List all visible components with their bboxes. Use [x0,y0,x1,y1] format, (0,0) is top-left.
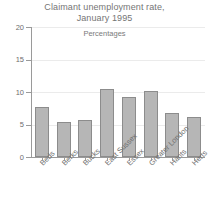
next-chart-partial: 20 Percentages [0,205,209,222]
gridline [31,60,205,61]
y-tick-mark [26,92,31,93]
y-tick-label-text: 5 [0,120,24,129]
y-tick-label: 0 [0,153,24,162]
y-tick-label: 10 [0,88,24,97]
y-tick-mark [26,157,31,158]
x-tick-mark [151,158,152,161]
gridline [31,27,205,28]
x-tick-mark [64,158,65,161]
x-tick-mark [172,158,173,161]
y-tick-label-text: 0 [0,153,24,162]
x-tick-mark [85,158,86,161]
bar [144,91,158,157]
gridline [31,92,205,93]
bar [100,89,114,157]
bar [35,107,49,157]
y-tick-mark [26,27,31,28]
x-tick-mark [194,158,195,161]
chart-title: Claimant unemployment rate, January 1995 [0,2,209,24]
x-tick-mark [129,158,130,161]
chart-title-line-1: Claimant unemployment rate, [0,2,209,13]
y-tick-label: 15 [0,55,24,64]
y-axis-line [31,27,32,158]
y-tick-label-text: 10 [0,88,24,97]
y-tick-label: 5 [0,120,24,129]
y-tick-label-text: 20 [0,23,24,32]
y-tick-label: 20 [0,23,24,32]
chart-title-line-2: January 1995 [0,13,209,24]
y-tick-mark [26,60,31,61]
x-tick-mark [42,158,43,161]
chart-figure: Claimant unemployment rate, January 1995… [0,0,209,222]
y-tick-mark [26,125,31,126]
y-tick-label-text: 15 [0,55,24,64]
x-tick-mark [107,158,108,161]
